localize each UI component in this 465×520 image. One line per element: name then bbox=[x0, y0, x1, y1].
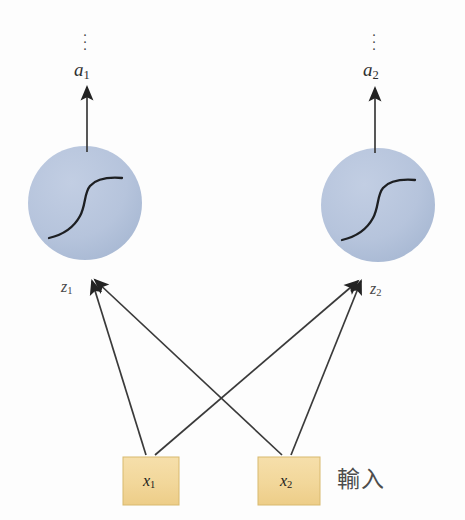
preactivation-label-z2-subscript: 2 bbox=[376, 287, 381, 298]
output-label-a2: a2 bbox=[363, 60, 379, 81]
neural-network-figure: . . . . . . a1 a2 z1 z2 x1 x2 輸入 bbox=[0, 0, 465, 520]
output-label-a1-base: a bbox=[74, 59, 84, 80]
output-arrows bbox=[87, 87, 375, 153]
figure-canvas bbox=[0, 0, 465, 520]
ellipsis-dot: . bbox=[369, 42, 379, 49]
input-layer-caption: 輸入 bbox=[337, 468, 385, 491]
connection-x1-to-z2 bbox=[155, 281, 358, 455]
vertical-ellipsis-2: . . . bbox=[369, 28, 379, 49]
connection-arrows bbox=[92, 280, 361, 455]
vertical-ellipsis-1: . . . bbox=[80, 28, 90, 49]
ellipsis-dot: . bbox=[80, 42, 90, 49]
output-label-a2-base: a bbox=[363, 59, 373, 80]
connection-x2-to-z2 bbox=[291, 281, 361, 455]
preactivation-label-z1-subscript: 1 bbox=[67, 285, 72, 296]
output-label-a1-subscript: 1 bbox=[84, 68, 90, 82]
connection-x2-to-z1 bbox=[95, 280, 282, 455]
input-label-x2-subscript: 2 bbox=[287, 479, 292, 490]
neuron-1 bbox=[28, 146, 142, 260]
input-label-x2: x2 bbox=[280, 473, 292, 491]
input-label-x1-subscript: 1 bbox=[150, 479, 155, 490]
input-label-x1: x1 bbox=[143, 473, 155, 491]
output-label-a2-subscript: 2 bbox=[373, 68, 379, 82]
preactivation-label-z1: z1 bbox=[61, 279, 73, 297]
neuron-2 bbox=[321, 148, 435, 262]
output-label-a1: a1 bbox=[74, 60, 90, 81]
preactivation-label-z2: z2 bbox=[370, 281, 382, 299]
connection-x1-to-z1 bbox=[92, 281, 146, 455]
